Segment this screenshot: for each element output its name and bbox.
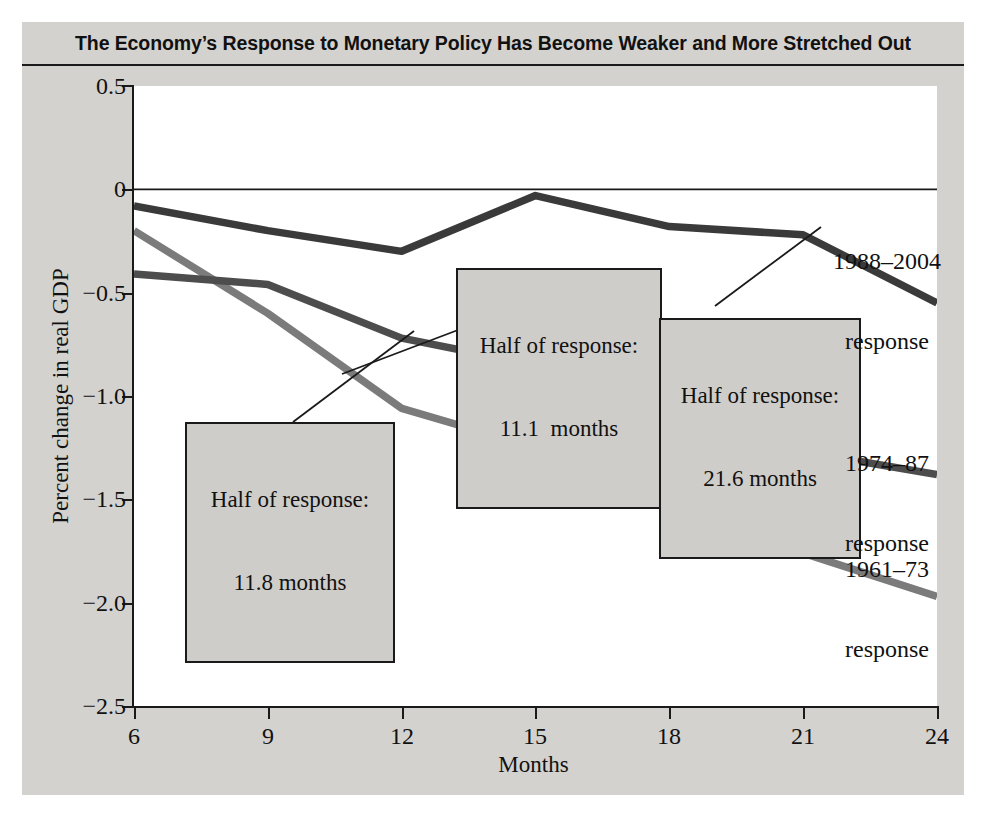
y-tick-label-1: 0 (114, 176, 126, 203)
page-title: The Economy’s Response to Monetary Polic… (75, 32, 911, 55)
x-tick-3 (535, 706, 537, 719)
x-tick-label-6: 24 (925, 723, 949, 750)
x-tick-0 (134, 706, 136, 719)
callout-line-2: 11.1 months (472, 415, 646, 443)
y-tick-label-6: −2.5 (82, 693, 126, 720)
figure-panel: The Economy’s Response to Monetary Polic… (22, 22, 964, 795)
x-tick-1 (268, 706, 270, 719)
x-tick-label-2: 12 (390, 723, 414, 750)
callout-half-response-11-8: Half of response: 11.8 months (185, 422, 395, 663)
x-tick-label-4: 18 (657, 723, 681, 750)
x-tick-5 (803, 706, 805, 719)
x-axis-label: Months (132, 752, 935, 778)
chart-figure: The Economy’s Response to Monetary Polic… (0, 0, 986, 817)
callout-line-2: 11.8 months (201, 569, 379, 597)
y-axis-label: Percent change in real GDP (44, 86, 78, 706)
x-tick-label-1: 9 (262, 723, 274, 750)
series-label-line-1: 1974–87 (812, 450, 962, 477)
series-label-line-1: 1988–2004 (812, 248, 962, 275)
y-tick-label-5: −2.0 (82, 590, 126, 617)
series-label-1988-2004: 1988–2004 response (812, 194, 962, 409)
x-tick-label-3: 15 (523, 723, 547, 750)
title-divider (22, 64, 964, 66)
x-tick-label-0: 6 (128, 723, 140, 750)
series-label-line-2: response (812, 636, 962, 663)
x-tick-label-5: 21 (791, 723, 815, 750)
callout-line-1: Half of response: (201, 486, 379, 514)
y-axis-label-text: Percent change in real GDP (48, 268, 74, 523)
y-tick-label-4: −1.5 (82, 486, 126, 513)
x-tick-2 (402, 706, 404, 719)
callout-line-1: Half of response: (472, 332, 646, 360)
series-label-line-1: 1961–73 (812, 556, 962, 583)
y-tick-label-3: −1.0 (82, 383, 126, 410)
title-bar: The Economy’s Response to Monetary Polic… (22, 22, 964, 64)
y-tick-label-2: −0.5 (82, 280, 126, 307)
series-label-1961-73: 1961–73 response (812, 502, 962, 717)
x-tick-4 (669, 706, 671, 719)
x-axis-label-text: Months (498, 752, 568, 777)
series-label-line-2: response (812, 328, 962, 355)
y-tick-label-0: 0.5 (96, 73, 126, 100)
callout-half-response-11-1: Half of response: 11.1 months (456, 268, 662, 509)
